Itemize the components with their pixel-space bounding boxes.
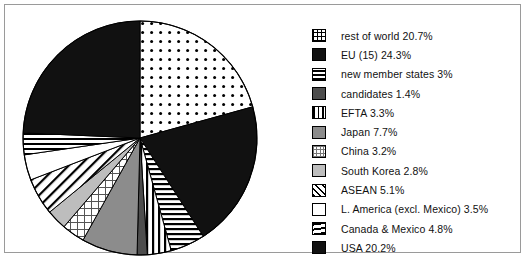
pie-chart-figure: rest of world 20.7% EU (15) 24.3% new me… — [0, 0, 529, 278]
legend-item-candidates[interactable]: candidates 1.4% — [312, 84, 512, 103]
legend-swatch-medium-gray-icon — [312, 126, 326, 139]
legend-item-canada-mexico[interactable]: Canada & Mexico 4.8% — [312, 219, 512, 238]
legend-swatch-diagonal-hatch-icon — [312, 184, 326, 197]
legend-label: Japan 7.7% — [341, 126, 397, 138]
legend-swatch-light-gray-icon — [312, 164, 326, 177]
legend-label: ASEAN 5.1% — [341, 184, 404, 196]
legend-swatch-solid-black-icon — [312, 241, 326, 254]
legend-item-usa[interactable]: USA 20.2% — [312, 238, 512, 257]
legend-swatch-white-icon — [312, 203, 326, 216]
legend-item-south-korea[interactable]: South Korea 2.8% — [312, 161, 512, 180]
legend-item-rest-of-world[interactable]: rest of world 20.7% — [312, 26, 512, 45]
legend-label: South Korea 2.8% — [341, 165, 428, 177]
legend-swatch-crosshatch-grid-icon — [312, 145, 326, 158]
legend-label: EU (15) 24.3% — [341, 49, 411, 61]
legend-label: Canada & Mexico 4.8% — [341, 223, 453, 235]
legend-item-eu-15[interactable]: EU (15) 24.3% — [312, 45, 512, 64]
legend-swatch-solid-black-icon — [312, 48, 326, 61]
legend-label: candidates 1.4% — [341, 88, 420, 100]
legend-label: China 3.2% — [341, 145, 396, 157]
legend-swatch-dots-icon — [312, 29, 326, 42]
legend-label: EFTA 3.3% — [341, 107, 394, 119]
legend-swatch-vertical-lines-icon — [312, 106, 326, 119]
legend-item-japan[interactable]: Japan 7.7% — [312, 122, 512, 141]
legend-label: L. America (excl. Mexico) 3.5% — [341, 203, 488, 215]
legend-swatch-wavy-lines-icon — [312, 222, 326, 235]
legend-item-efta[interactable]: EFTA 3.3% — [312, 103, 512, 122]
legend-item-new-member-states[interactable]: new member states 3% — [312, 65, 512, 84]
legend-item-china[interactable]: China 3.2% — [312, 142, 512, 161]
legend-item-latin-america[interactable]: L. America (excl. Mexico) 3.5% — [312, 200, 512, 219]
legend-swatch-dark-gray-icon — [312, 87, 326, 100]
pie-chart-svg — [22, 18, 262, 258]
legend-label: rest of world 20.7% — [341, 30, 433, 42]
legend-swatch-horizontal-lines-icon — [312, 68, 326, 81]
legend-label: new member states 3% — [341, 68, 453, 80]
legend: rest of world 20.7% EU (15) 24.3% new me… — [312, 26, 512, 258]
pie-slice-eu-15 — [23, 21, 140, 138]
legend-label: USA 20.2% — [341, 242, 396, 254]
legend-item-asean[interactable]: ASEAN 5.1% — [312, 180, 512, 199]
